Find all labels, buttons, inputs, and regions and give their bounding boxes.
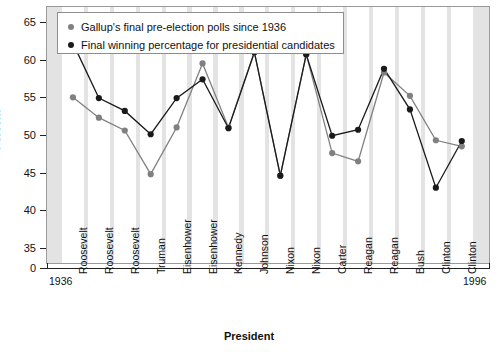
background-band	[425, 7, 447, 263]
y-axis-title: Percent	[0, 110, 2, 150]
x-category-label: Eisenhower	[207, 219, 219, 274]
y-tick-label: 40	[10, 205, 36, 215]
background-band	[451, 7, 473, 263]
chart-container: 354045505560650 Percent RooseveltRooseve…	[0, 0, 498, 352]
y-tick-label: 55	[10, 92, 36, 102]
y-tick-label: 65	[10, 17, 36, 27]
legend-item-final-winning: Final winning percentage for presidentia…	[66, 36, 335, 54]
x-axis-cap	[489, 263, 490, 269]
x-category-label: Kennedy	[232, 233, 244, 274]
x-category-label: Nixon	[310, 247, 322, 274]
y-tick-label: 50	[10, 130, 36, 140]
legend-marker-gray	[68, 24, 74, 30]
background-band	[399, 7, 421, 263]
legend-label-final-winning: Final winning percentage for presidentia…	[81, 39, 335, 51]
x-category-label: Carter	[336, 245, 348, 274]
y-tick-label: 45	[10, 168, 36, 178]
x-category-label: Roosevelt	[103, 227, 115, 274]
x-category-label: Eisenhower	[181, 219, 193, 274]
legend-marker-black	[68, 42, 74, 48]
legend-label-gallup-polls: Gallup's final pre-election polls since …	[81, 21, 286, 33]
y-tick-mark	[40, 210, 46, 211]
y-tick-mark	[40, 22, 46, 23]
y-tick-label: 0	[10, 263, 36, 273]
y-tick-mark	[40, 248, 46, 249]
x-end-year-label: 1996	[463, 275, 486, 287]
x-category-label: Roosevelt	[129, 227, 141, 274]
background-band	[347, 7, 369, 263]
x-axis-title: President	[0, 330, 498, 342]
y-tick-mark	[40, 173, 46, 174]
x-category-label: Nixon	[284, 247, 296, 274]
y-tick-label: 60	[10, 55, 36, 65]
x-start-year-label: 1936	[49, 275, 72, 287]
background-band	[373, 7, 395, 263]
x-category-label: Bush	[414, 250, 426, 274]
x-axis-cap	[47, 263, 48, 269]
x-category-label: Reagan	[362, 237, 374, 274]
legend: Gallup's final pre-election polls since …	[57, 12, 344, 54]
y-tick-mark	[40, 135, 46, 136]
legend-item-gallup-polls: Gallup's final pre-election polls since …	[66, 18, 335, 36]
x-category-label: Johnson	[258, 234, 270, 274]
y-tick-mark	[40, 97, 46, 98]
x-category-label: Clinton	[466, 241, 478, 274]
x-category-label: Roosevelt	[77, 227, 89, 274]
y-tick-mark	[40, 60, 46, 61]
x-category-label: Truman	[155, 238, 167, 274]
x-category-label: Reagan	[388, 237, 400, 274]
y-tick-label: 35	[10, 243, 36, 253]
x-category-label: Clinton	[440, 241, 452, 274]
